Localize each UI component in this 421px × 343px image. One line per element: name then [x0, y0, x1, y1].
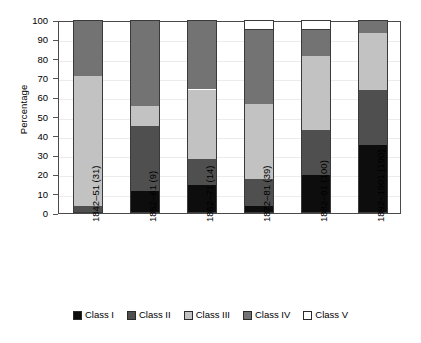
plot-area [58, 21, 401, 214]
legend-swatch-icon [184, 311, 193, 320]
legend-label: Class II [139, 310, 171, 320]
bar-segment [130, 20, 160, 106]
bar-segment [130, 106, 160, 126]
y-axis-tick-label: 100 [8, 16, 48, 26]
y-axis-tick-label: 90 [8, 35, 48, 45]
y-axis-tick-label: 50 [8, 113, 48, 123]
y-axis-tick-label: 10 [8, 190, 48, 200]
legend-item: Class V [303, 310, 348, 320]
y-axis-tick-label: 0 [8, 209, 48, 219]
bar-segment [301, 30, 331, 56]
y-axis-tick-label: 70 [8, 74, 48, 84]
bar-segment [301, 20, 331, 30]
bar-segment [358, 33, 388, 91]
bars-layer [59, 22, 400, 213]
y-axis-tick-labels: 0102030405060708090100 [0, 0, 60, 343]
bar-segment [301, 56, 331, 130]
legend-item: Class III [184, 310, 230, 320]
legend-item: Class IV [243, 310, 290, 320]
x-axis-tick-label: 1862–71 (14) [205, 165, 215, 222]
legend-label: Class I [85, 310, 114, 320]
bar-segment [73, 20, 103, 76]
legend-label: Class IV [255, 310, 290, 320]
y-axis-tick-label: 80 [8, 55, 48, 65]
legend-swatch-icon [127, 311, 136, 320]
bar-segment [187, 90, 217, 159]
bar-segment [358, 20, 388, 33]
x-axis-tick-label: 1842–51 (31) [91, 165, 101, 222]
chart-legend: Class IClass IIClass IIIClass IVClass V [0, 310, 421, 320]
y-axis-tick-label: 30 [8, 151, 48, 161]
y-axis-tick-label: 40 [8, 132, 48, 142]
legend-item: Class II [127, 310, 171, 320]
x-axis-tick-labels: 1842–51 (31)1852–61 (9)1862–71 (14)1872–… [58, 214, 401, 304]
y-axis-tick-label: 60 [8, 93, 48, 103]
legend-item: Class I [73, 310, 114, 320]
legend-swatch-icon [73, 311, 82, 320]
x-axis-tick-label: 1882–91 (100) [319, 160, 329, 222]
x-axis-tick-label: 1892–1901 (190) [376, 150, 386, 222]
stacked-bar-chart: Percentage 0102030405060708090100 1842–5… [0, 0, 421, 343]
legend-label: Class III [196, 310, 230, 320]
bar-segment [187, 20, 217, 89]
legend-label: Class V [315, 310, 348, 320]
bar-segment [244, 30, 274, 105]
y-axis-tick-label: 20 [8, 170, 48, 180]
bar-segment [358, 90, 388, 144]
x-axis-tick-label: 1872–81 (39) [262, 165, 272, 222]
legend-swatch-icon [303, 311, 312, 320]
bar-segment [244, 20, 274, 30]
legend-swatch-icon [243, 311, 252, 320]
x-axis-tick-label: 1852–61 (9) [148, 171, 158, 222]
